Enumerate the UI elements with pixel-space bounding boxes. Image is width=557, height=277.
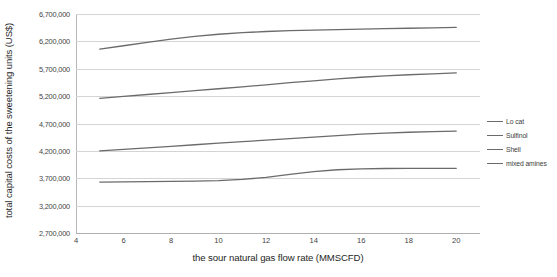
legend-label: mixed amines (506, 160, 547, 167)
chart-legend: Lo catSulfinolShellmixed amines (487, 115, 557, 171)
x-tick-label: 10 (214, 236, 222, 245)
legend-label: Sulfinol (506, 132, 528, 139)
x-tick-label: 20 (452, 236, 460, 245)
legend-item[interactable]: Sulfinol (487, 129, 557, 142)
y-tick-label: 6,200,000 (39, 37, 70, 46)
series-lines (76, 14, 480, 233)
x-tick-label: 12 (262, 236, 270, 245)
series-line (100, 27, 456, 49)
legend-label: Lo cat (506, 118, 524, 125)
y-tick-label: 5,700,000 (39, 64, 70, 73)
x-tick-label: 4 (74, 236, 78, 245)
series-line (100, 73, 456, 98)
y-tick-label: 6,700,000 (39, 10, 70, 19)
y-axis-tick-labels: 2,700,0003,200,0003,700,0004,200,0004,70… (18, 0, 74, 240)
plot-area (76, 14, 480, 233)
legend-swatch-icon (487, 121, 503, 123)
x-tick-label: 8 (169, 236, 173, 245)
legend-swatch-icon (487, 149, 503, 151)
legend-label: Shell (506, 146, 521, 153)
y-tick-label: 3,200,000 (39, 201, 70, 210)
x-tick-label: 14 (309, 236, 317, 245)
series-line (100, 168, 456, 182)
y-axis-title: total capital costs of the sweetening un… (0, 0, 18, 240)
series-line (100, 131, 456, 151)
x-axis-tick-labels: 468101214161820 (76, 236, 480, 250)
x-tick-label: 6 (121, 236, 125, 245)
legend-swatch-icon (487, 135, 503, 137)
y-tick-label: 3,700,000 (39, 174, 70, 183)
legend-item[interactable]: Lo cat (487, 115, 557, 128)
x-tick-label: 16 (357, 236, 365, 245)
legend-item[interactable]: mixed amines (487, 157, 557, 170)
x-tick-label: 18 (404, 236, 412, 245)
y-tick-label: 2,700,000 (39, 229, 70, 238)
x-axis-title: the sour natural gas flow rate (MMSCFD) (76, 252, 480, 263)
legend-item[interactable]: Shell (487, 143, 557, 156)
y-tick-label: 4,200,000 (39, 146, 70, 155)
y-tick-label: 4,700,000 (39, 119, 70, 128)
y-tick-label: 5,200,000 (39, 92, 70, 101)
chart-container: total capital costs of the sweetening un… (0, 0, 557, 277)
legend-swatch-icon (487, 163, 503, 165)
y-axis-title-text: total capital costs of the sweetening un… (4, 22, 15, 217)
gridline (76, 233, 480, 234)
